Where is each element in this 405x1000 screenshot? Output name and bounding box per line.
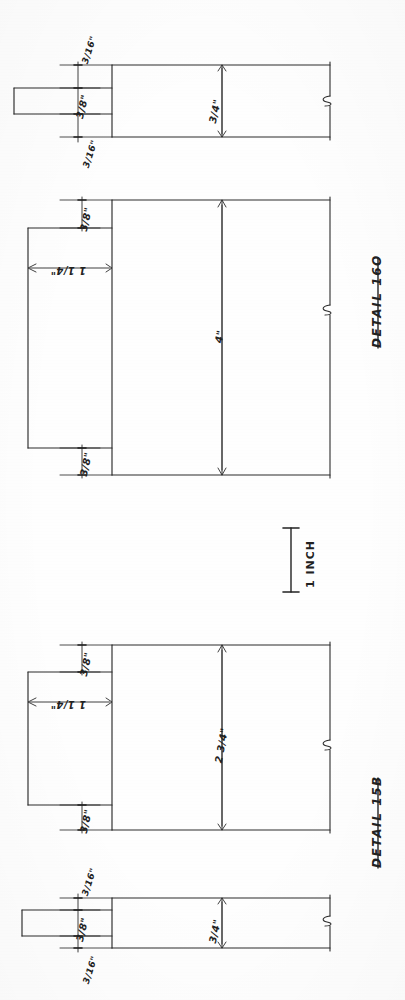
dim-label-tenon-length-15b-face: 1 1/4"	[50, 699, 86, 710]
dim-label-tenon-length-16o-face: 1 1/4"	[50, 265, 86, 276]
face-view-15b-geometry	[28, 642, 331, 833]
face-view-16o-geometry	[28, 197, 331, 478]
scale-bar-geometry	[283, 528, 299, 592]
section-view-15b-geometry	[22, 894, 331, 952]
drawing-geometry	[0, 0, 405, 1000]
dim-label-overall-height-16o-face: 4"	[213, 329, 226, 344]
section-view-16o-geometry	[14, 62, 331, 142]
detail-title-16o: DETAIL 16O	[370, 254, 384, 348]
drawing-sheet: 3/16" 3/8" 3/16" 3/4" 3/8" 1 1/4" 4" 3/8…	[0, 0, 405, 1000]
scale-bar-label: 1 INCH	[304, 540, 317, 588]
detail-title-15b: DETAIL 15B	[370, 775, 384, 868]
